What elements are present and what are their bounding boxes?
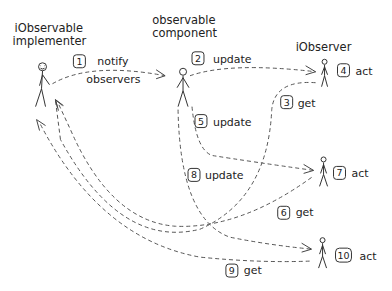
step-label-2: update (213, 53, 252, 66)
step-number-10: 10 (338, 250, 350, 261)
step-label-7: act (351, 167, 369, 180)
step-label-6: get (296, 206, 315, 219)
arrow-step-2 (190, 68, 316, 76)
stick-figure-implementer-icon (36, 63, 50, 107)
step-label-3: get (298, 97, 317, 110)
observer-pattern-diagram: iObservable implementer observable compo… (0, 0, 392, 291)
arrow-step-6 (57, 102, 311, 227)
arrowhead-2-icon (306, 66, 316, 75)
step-number-6: 6 (281, 207, 287, 218)
step-label-9: get (244, 264, 263, 277)
stick-figure-component-icon (177, 68, 189, 106)
actor-title-implementer-line2: implementer (13, 34, 87, 48)
step-number-1: 1 (76, 56, 82, 67)
step-label-5: update (213, 116, 252, 129)
actor-title-implementer-line1: iObservable (15, 21, 83, 35)
step-label-10: act (359, 250, 377, 263)
step-label-8: update (205, 169, 244, 182)
stick-figure-observer-3-icon (319, 238, 327, 268)
step-label-4: act (355, 65, 373, 78)
step-number-5: 5 (198, 116, 204, 127)
step-number-7: 7 (337, 167, 343, 178)
arrow-step-9 (41, 125, 310, 262)
arrowhead-8-icon (302, 243, 312, 252)
step-label-1: notify (97, 55, 129, 68)
step-number-2: 2 (195, 53, 201, 64)
actor-title-observer: iObserver (296, 40, 352, 54)
actor-title-component-line1: observable (152, 13, 215, 27)
arrow-step-5 (192, 107, 314, 171)
step-label-1-line2: observers (86, 73, 140, 86)
step-number-3: 3 (284, 97, 290, 108)
step-number-4: 4 (341, 65, 347, 76)
stick-figure-observer-2-icon (320, 157, 328, 186)
step-number-8: 8 (191, 169, 197, 180)
step-number-9: 9 (229, 265, 235, 276)
stick-figure-observer-1-icon (322, 59, 328, 86)
actor-title-component-line2: component (152, 26, 217, 40)
